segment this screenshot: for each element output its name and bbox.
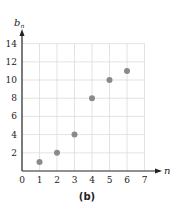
x-tick-label: 2 <box>54 175 60 185</box>
x-tick-label: 7 <box>142 175 148 185</box>
data-point <box>37 159 43 165</box>
x-tick-label: 5 <box>107 175 113 185</box>
y-axis-label: bn <box>14 17 24 29</box>
x-tick-label: 4 <box>89 175 95 185</box>
data-point <box>54 150 60 156</box>
axes <box>20 29 163 174</box>
y-tick-label: 8 <box>11 93 17 103</box>
data-point <box>124 68 130 74</box>
y-tick-label: 10 <box>6 75 18 85</box>
y-tick-label: 6 <box>11 111 17 121</box>
x-tick-label: 3 <box>72 175 78 185</box>
x-tick-labels: 01234567 <box>19 175 148 185</box>
y-tick-label: 14 <box>6 39 18 49</box>
y-tick-labels: 2468101214 <box>6 39 18 158</box>
y-tick-label: 12 <box>6 57 17 67</box>
data-point <box>107 77 113 83</box>
y-tick-label: 2 <box>11 148 17 158</box>
y-tick-label: 4 <box>11 130 17 140</box>
y-axis-arrow-icon <box>20 29 25 36</box>
grid-lines <box>22 44 145 171</box>
data-point <box>72 132 78 138</box>
x-axis-label: n <box>164 165 170 176</box>
x-axis-arrow-icon <box>155 169 162 174</box>
x-tick-label: 0 <box>19 175 25 185</box>
x-tick-label: 1 <box>37 175 43 185</box>
scatter-chart: 01234567 2468101214 bn n (b) <box>0 0 177 214</box>
x-tick-label: 6 <box>124 175 130 185</box>
figure-caption: (b) <box>79 191 95 202</box>
data-point <box>89 95 95 101</box>
